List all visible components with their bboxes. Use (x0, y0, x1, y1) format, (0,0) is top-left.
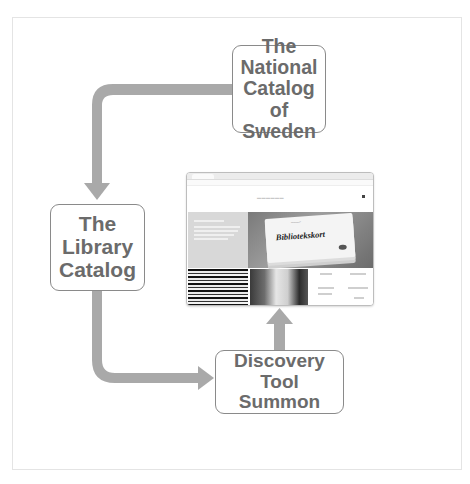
card-subtitle: ———— (291, 221, 301, 225)
node-discovery-tool: Discovery Tool Summon (215, 350, 344, 414)
hero-text-panel (188, 212, 248, 268)
browser-tab (192, 174, 214, 179)
browser-tab-bar (187, 173, 373, 180)
arrow-summon-to-screenshot (266, 308, 293, 350)
library-card-image: ———— Bibliotekskort (265, 213, 356, 263)
site-logo: ▬▬▬▬▬▬ (257, 195, 284, 200)
content-tiles (188, 269, 374, 306)
node-summon-label: Discovery Tool Summon (216, 351, 343, 413)
seal-icon (339, 244, 347, 250)
card-title: Bibliotekskort (276, 229, 326, 242)
site-header: ▬▬▬▬▬▬ (187, 186, 373, 211)
menu-icon (362, 195, 365, 198)
node-library-label: The Library Catalog (59, 213, 136, 281)
node-national-catalog: The National Catalog of Sweden (232, 45, 326, 133)
tile-old-text-image (188, 269, 248, 306)
tile-people-image (250, 269, 308, 306)
node-library-catalog: The Library Catalog (50, 204, 145, 291)
hero-image: ———— Bibliotekskort (248, 212, 374, 268)
hero-banner: ———— Bibliotekskort (188, 212, 374, 268)
website-screenshot: ▬▬▬▬▬▬ ———— Bibliotekskort (186, 172, 374, 306)
tile-info-columns (310, 269, 374, 306)
node-national-label: The National Catalog of Sweden (233, 36, 325, 141)
